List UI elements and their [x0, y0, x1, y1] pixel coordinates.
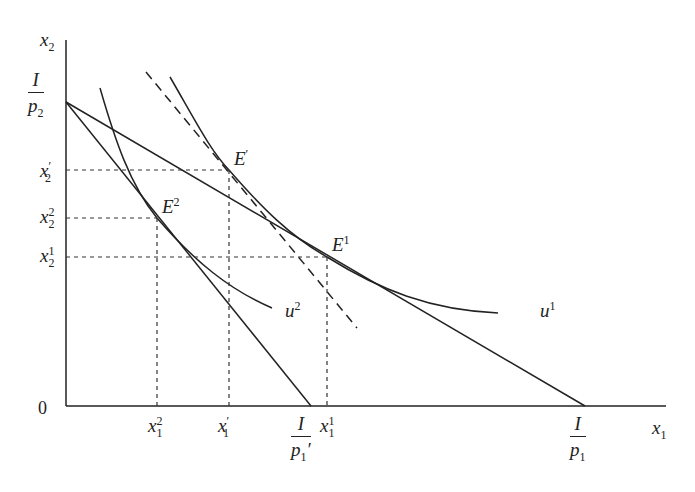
curve-label-u2: u2	[285, 300, 301, 320]
x-tick-income-over-p1-prime: Ip1′	[291, 414, 311, 463]
x-tick-x1-prime: x′1	[218, 415, 229, 439]
budget-line-new	[66, 102, 311, 406]
x-tick-x1-1: x11	[320, 415, 334, 439]
y-axis-label: x2	[40, 30, 54, 53]
y-tick-x2-prime: x′2	[40, 160, 51, 184]
curve-label-u1: u1	[540, 300, 556, 320]
point-e2: E2	[162, 196, 180, 216]
x-tick-income-over-p1: Ip1	[570, 414, 586, 463]
x-tick-x1-2: x21	[148, 415, 162, 439]
y-tick-income-over-p2: Ip2	[28, 70, 44, 119]
origin-label: 0	[38, 398, 47, 419]
budget-line-original	[66, 102, 585, 406]
point-e1: E1	[332, 234, 350, 254]
x-axis-label: x1	[652, 418, 666, 441]
point-e-prime: E′	[234, 148, 248, 168]
y-tick-x2-2: x22	[40, 206, 54, 230]
y-tick-x2-1: x12	[40, 245, 54, 269]
